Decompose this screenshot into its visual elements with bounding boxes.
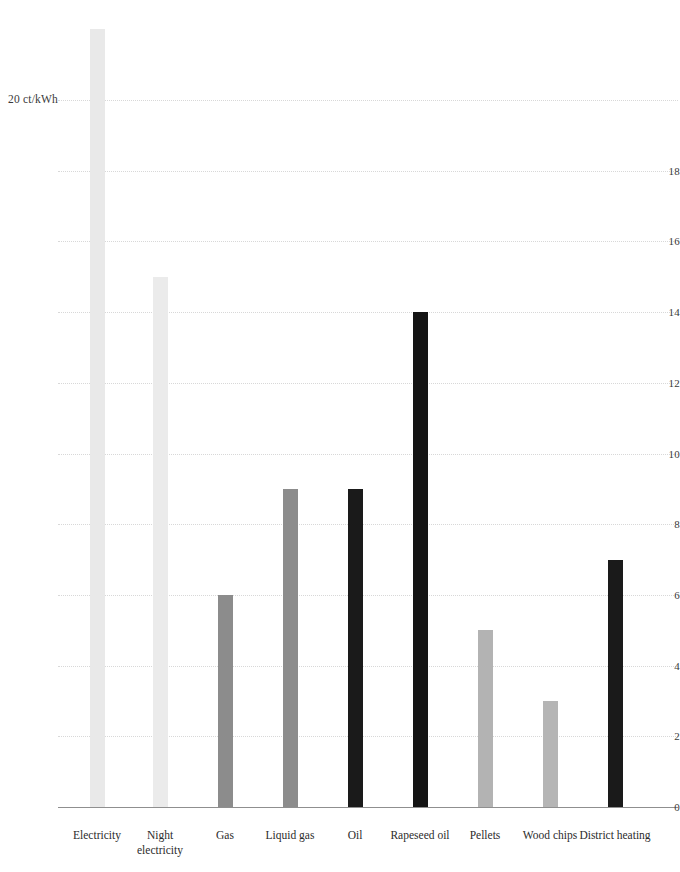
bar-gas [218,595,233,807]
gridline-18 [58,171,678,172]
y-tick-label-16: 16 [628,236,680,247]
plot-area: 20 ct/kWh 18 16 14 12 10 8 6 4 2 0 Elect… [0,0,680,872]
bar-electricity [90,29,105,807]
x-axis-line [58,807,678,808]
y-tick-label-2: 2 [628,731,680,742]
bar-rapeseed-oil [413,312,428,807]
x-label-district-heating: District heating [555,828,675,843]
gridline-4 [58,666,678,667]
gridline-10 [58,454,678,455]
y-tick-label-20: 20 ct/kWh [0,94,80,106]
y-tick-label-14: 14 [628,307,680,318]
gridline-6 [58,595,678,596]
y-tick-label-12: 12 [628,377,680,388]
gridline-12 [58,383,678,384]
bar-night-electricity [153,277,168,807]
y-tick-label-8: 8 [628,519,680,530]
gridline-16 [58,241,678,242]
bar-district-heating [608,560,623,807]
y-tick-label-10: 10 [628,448,680,459]
gridline-8 [58,524,678,525]
y-tick-label-6: 6 [628,589,680,600]
bar-liquid-gas [283,489,298,807]
bar-wood-chips [543,701,558,807]
y-tick-label-4: 4 [628,660,680,671]
gridline-14 [58,312,678,313]
y-tick-label-18: 18 [628,165,680,176]
gridline-20 [58,100,678,101]
bar-oil [348,489,363,807]
bar-pellets [478,630,493,807]
bar-chart: 20 ct/kWh 18 16 14 12 10 8 6 4 2 0 Elect… [0,0,680,872]
gridline-2 [58,736,678,737]
y-tick-label-0: 0 [628,802,680,813]
